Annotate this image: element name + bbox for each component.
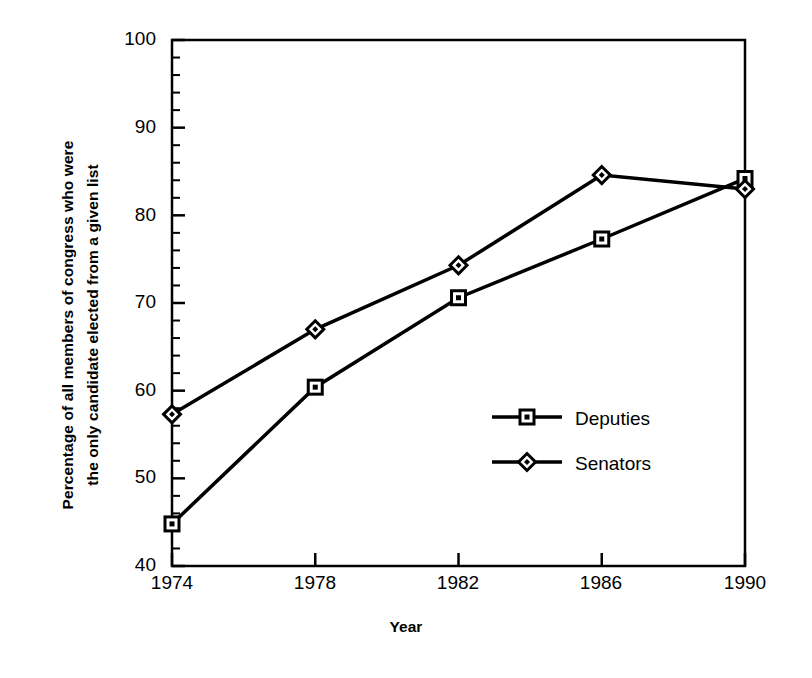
series-line-deputies xyxy=(172,179,745,524)
y-tick-label-50: 50 xyxy=(100,466,156,488)
x-tick-label-1982: 1982 xyxy=(413,572,503,594)
x-tick-label-1986: 1986 xyxy=(556,572,646,594)
data-point-senators-1978 xyxy=(307,321,324,338)
data-point-deputies-1986 xyxy=(595,232,609,246)
data-point-deputies-1978 xyxy=(308,380,322,394)
y-tick-label-100: 100 xyxy=(100,28,156,50)
data-series-group xyxy=(164,167,754,531)
y-tick-label-60: 60 xyxy=(100,379,156,401)
x-tick-label-1974: 1974 xyxy=(127,572,217,594)
legend-markers xyxy=(492,410,562,471)
x-tick-label-1978: 1978 xyxy=(270,572,360,594)
legend-label-senators: Senators xyxy=(575,453,651,475)
chart-figure: 100 90 80 70 60 50 40 1974 1978 1982 198… xyxy=(0,0,812,678)
data-point-senators-1982 xyxy=(450,257,467,274)
x-axis-title: Year xyxy=(0,618,812,636)
data-point-senators-1986 xyxy=(593,167,610,184)
line-chart-canvas xyxy=(0,0,812,678)
y-tick-label-80: 80 xyxy=(100,204,156,226)
y-tick-label-90: 90 xyxy=(100,116,156,138)
legend-label-deputies: Deputies xyxy=(575,408,650,430)
legend-marker-deputies xyxy=(520,410,534,424)
data-point-deputies-1982 xyxy=(452,291,466,305)
y-tick-label-70: 70 xyxy=(100,291,156,313)
legend-marker-senators xyxy=(519,454,536,471)
x-tick-label-1990: 1990 xyxy=(700,572,790,594)
data-point-deputies-1974 xyxy=(165,517,179,531)
